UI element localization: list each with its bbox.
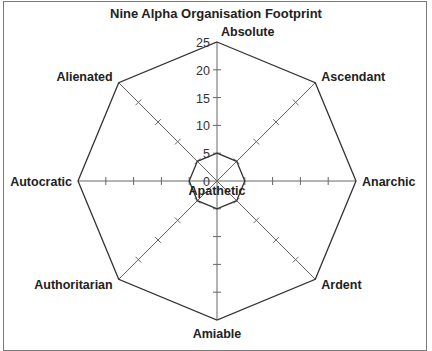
axis-label-ascendant: Ascendant — [321, 70, 386, 84]
axis-label-alienated: Alienated — [56, 70, 112, 84]
tick-label: 20 — [196, 64, 210, 78]
axis-label-authoritarian: Authoritarian — [34, 278, 112, 292]
tick-label: 10 — [196, 119, 210, 133]
axis-label-ardent: Ardent — [321, 278, 362, 292]
axis-label-absolute: Absolute — [221, 25, 275, 39]
tick-label: 25 — [196, 36, 210, 50]
tick-label: 15 — [196, 92, 210, 106]
axis-label-anarchic: Anarchic — [362, 175, 416, 189]
axis-label-autocratic: Autocratic — [10, 175, 72, 189]
axis-line — [217, 83, 315, 181]
axis-label-amiable: Amiable — [193, 327, 242, 341]
tick-label: 5 — [203, 147, 210, 161]
center-label: Apathetic — [189, 184, 246, 198]
